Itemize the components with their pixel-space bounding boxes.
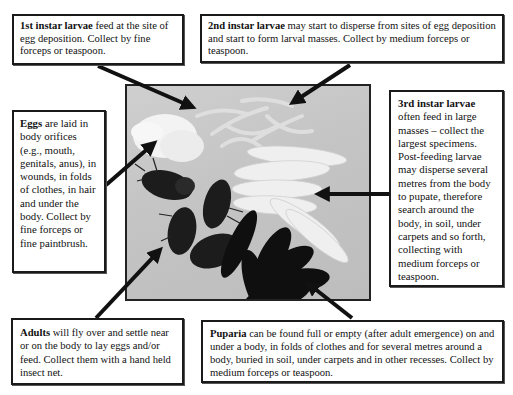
- adults-title: Adults: [20, 327, 50, 338]
- egg-mass: [131, 114, 204, 162]
- eggs-callout: Eggs are laid in body orifices (e.g., mo…: [12, 110, 106, 273]
- photo-illustration: [127, 86, 369, 299]
- second-instar-title: 2nd instar larvae: [208, 20, 285, 31]
- first-instar-title: 1st instar larvae: [20, 20, 93, 31]
- third-instar-title: 3rd instar larvae: [398, 97, 475, 109]
- second-instar-callout: 2nd instar larvae may start to disperse …: [200, 14, 504, 63]
- small-larvae: [197, 99, 312, 148]
- life-stages-photo: [125, 84, 371, 301]
- adults-callout: Adults will fly over and settle near or …: [11, 318, 184, 385]
- third-instar-text: often feed in large masses – collect the…: [398, 110, 491, 282]
- puparia-title: Puparia: [210, 328, 247, 339]
- puparia-callout: Puparia can be found full or empty (afte…: [201, 320, 504, 383]
- eggs-text: are laid in body orifices (e.g., mouth, …: [20, 117, 96, 249]
- eggs-title: Eggs: [20, 117, 42, 129]
- puparia-text: can be found full or empty (after adult …: [210, 328, 494, 378]
- third-instar-callout: 3rd instar larvae often feed in large ma…: [389, 90, 504, 287]
- first-instar-callout: 1st instar larvae feed at the site of eg…: [12, 14, 184, 65]
